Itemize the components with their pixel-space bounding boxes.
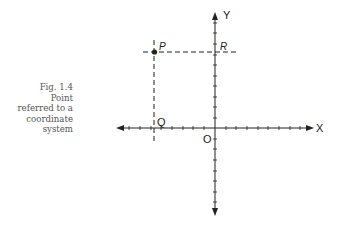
x-axis-arrow-left-icon <box>116 125 124 131</box>
origin-label: O <box>203 133 212 145</box>
x-axis-label: X <box>316 122 324 134</box>
x-axis-arrow-right-icon <box>306 125 314 131</box>
coordinate-diagram: Y X O P Q R <box>0 0 339 227</box>
y-axis-label: Y <box>223 9 231 21</box>
point-q-label: Q <box>157 116 166 128</box>
point-r-label: R <box>220 41 227 52</box>
point-p-marker <box>152 49 157 54</box>
y-axis-arrow-down-icon <box>212 208 218 216</box>
point-p-label: P <box>159 41 166 52</box>
y-axis-arrow-up-icon <box>212 12 218 20</box>
